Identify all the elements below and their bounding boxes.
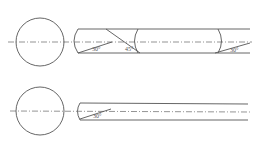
bottom-tube-upper-wall (80, 103, 248, 104)
bottom-figure: 30° (10, 87, 250, 135)
angle-label: 30° (92, 46, 101, 52)
top-left-meniscus (74, 29, 78, 53)
angle-label: 45° (125, 46, 134, 52)
angle-label: 30° (93, 113, 102, 119)
angle-label: 30° (230, 47, 239, 53)
diagram: 30° 45° 30° 30° (0, 0, 257, 151)
top-figure: 30° 45° 30° (8, 18, 252, 66)
top-middle-meniscus-right (218, 29, 222, 53)
bottom-centerline (10, 111, 250, 112)
